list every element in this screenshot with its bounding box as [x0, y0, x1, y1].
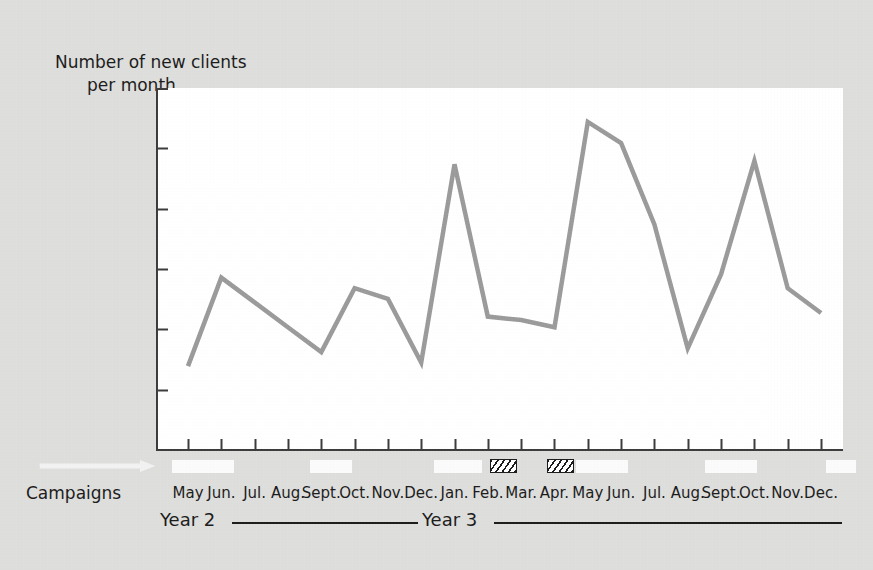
line-chart-svg: [156, 88, 843, 451]
year-2-rule: [232, 522, 404, 524]
x-axis-month-label: Apr.: [540, 484, 569, 502]
x-axis-month-label: Aug.: [671, 484, 705, 502]
x-axis-ticks: [189, 439, 822, 450]
x-axis-month-label: May: [172, 484, 203, 502]
x-axis-month-label: May: [572, 484, 603, 502]
campaign-arrow-ongoing: [30, 460, 165, 472]
year-3-rule-left: [404, 522, 418, 524]
axis-lines: [156, 88, 843, 450]
year-2-label: Year 2: [160, 509, 215, 530]
campaign-box-5: [705, 460, 757, 473]
campaign-box-1: [172, 460, 234, 473]
plot-area: [156, 88, 843, 451]
x-axis-month-label: Jul.: [243, 484, 266, 502]
x-axis-month-label: Dec.: [404, 484, 438, 502]
x-axis-month-label: Sept.: [702, 484, 741, 502]
x-axis-month-label: Nov.: [771, 484, 804, 502]
x-axis-month-label: Jan.: [441, 484, 469, 502]
campaign-marker-strip: [0, 458, 873, 480]
campaign-hatch-2: [547, 459, 574, 473]
year-3-rule-right: [494, 522, 842, 524]
x-axis-month-label: Mar.: [505, 484, 537, 502]
x-axis-month-label: Dec.: [804, 484, 838, 502]
x-axis-month-label: Aug.: [271, 484, 305, 502]
x-axis-month-labels: MayJun.Jul.Aug.Sept.Oct.Nov.Dec.Jan.Feb.…: [156, 484, 856, 506]
x-axis-month-label: Jun.: [607, 484, 635, 502]
x-axis-month-label: Nov.: [371, 484, 404, 502]
year-axis-row: Year 2 Year 3: [0, 509, 873, 541]
year-3-label: Year 3: [422, 509, 477, 530]
figure-root: Number of new clients per month Campaign…: [0, 0, 873, 570]
campaign-box-4: [576, 460, 628, 473]
x-axis-month-label: Sept.: [302, 484, 341, 502]
y-axis-title-line-1: Number of new clients: [55, 52, 247, 72]
campaigns-label: Campaigns: [26, 483, 121, 503]
x-axis-month-label: Jul.: [643, 484, 666, 502]
x-axis-month-label: Oct.: [339, 484, 370, 502]
data-series-line: [188, 122, 821, 366]
campaign-box-6: [826, 460, 856, 473]
x-axis-month-label: Feb.: [472, 484, 503, 502]
x-axis-month-label: Jun.: [207, 484, 235, 502]
y-axis-ticks: [157, 149, 168, 391]
x-axis-month-label: Oct.: [739, 484, 770, 502]
campaign-box-3: [434, 460, 482, 473]
campaign-box-2: [310, 460, 352, 473]
campaign-hatch-1: [490, 459, 517, 473]
